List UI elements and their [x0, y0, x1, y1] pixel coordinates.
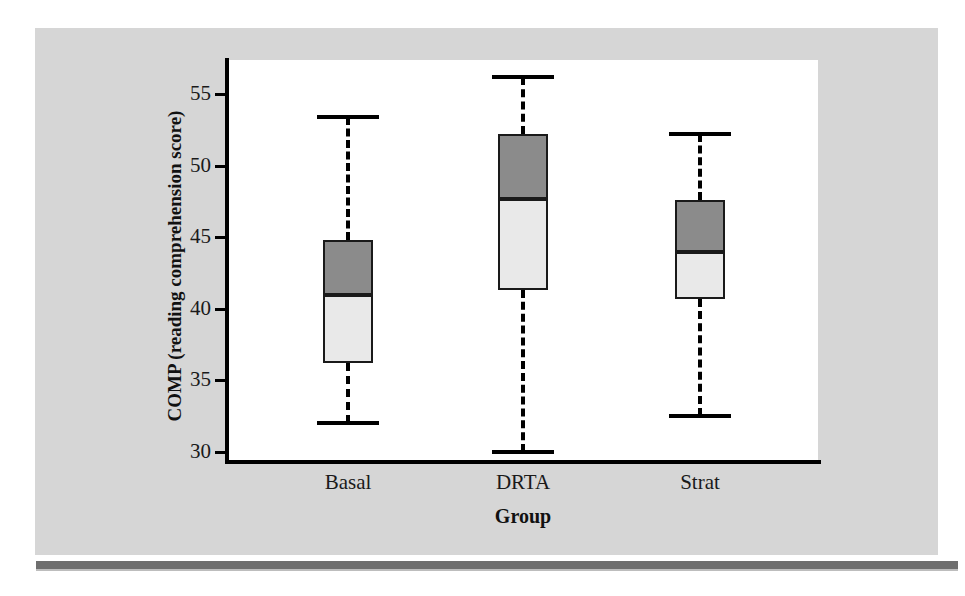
figure-page: 303540455055 BasalDRTAStrat COMP (readin…: [0, 0, 965, 596]
whisker-lower-basal: [346, 363, 350, 423]
y-tick-mark-50: [215, 165, 225, 168]
y-tick-mark-30: [215, 451, 225, 454]
whisker-cap-lower-basal: [317, 421, 379, 425]
y-axis-title: COMP (reading comprehension score): [164, 66, 186, 466]
x-axis-title: Group: [228, 505, 818, 528]
whisker-lower-drta: [521, 290, 525, 452]
whisker-cap-lower-drta: [492, 450, 554, 454]
y-tick-mark-45: [215, 236, 225, 239]
y-tick-mark-40: [215, 308, 225, 311]
whisker-cap-upper-basal: [317, 115, 379, 119]
box-lower-half-strat: [675, 252, 725, 299]
box-upper-half-drta: [498, 134, 548, 198]
box-lower-half-drta: [498, 199, 548, 291]
whisker-upper-drta: [521, 77, 525, 134]
y-tick-mark-35: [215, 379, 225, 382]
bottom-rule: [36, 561, 958, 569]
whisker-lower-strat: [698, 299, 702, 416]
whisker-cap-upper-drta: [492, 75, 554, 79]
whisker-cap-upper-strat: [669, 132, 731, 136]
whisker-upper-strat: [698, 134, 702, 200]
box-lower-half-basal: [323, 295, 373, 364]
box-upper-half-basal: [323, 240, 373, 294]
y-tick-mark-55: [215, 93, 225, 96]
bottom-rule-shadow: [36, 569, 958, 571]
x-tick-label-drta: DRTA: [443, 470, 603, 495]
y-axis-line: [225, 58, 229, 464]
whisker-cap-lower-strat: [669, 414, 731, 418]
box-upper-half-strat: [675, 200, 725, 252]
x-axis-line: [225, 460, 821, 464]
x-tick-label-strat: Strat: [620, 470, 780, 495]
whisker-upper-basal: [346, 117, 350, 240]
x-tick-label-basal: Basal: [268, 470, 428, 495]
